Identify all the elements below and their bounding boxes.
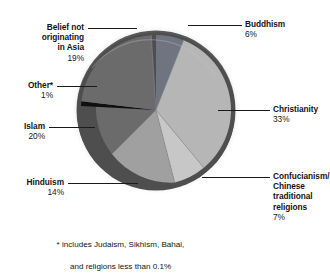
footnote-line2: and religions less than 0.1% bbox=[70, 262, 171, 271]
label-islam: Islam 20% bbox=[0, 121, 45, 141]
footnote-line1: * includes Judaism, Sikhism, Bahai, bbox=[57, 240, 185, 249]
label-buddhism-name: Buddhism bbox=[245, 19, 285, 29]
label-islam-pct: 20% bbox=[0, 131, 45, 141]
leader-line-islam bbox=[49, 127, 95, 128]
leader-line-other bbox=[57, 86, 97, 87]
label-hinduism-name: Hinduism bbox=[27, 177, 64, 187]
label-other-name: Other* bbox=[28, 80, 53, 90]
label-belief-not-asia-pct: 19% bbox=[0, 53, 84, 63]
label-belief-not-asia-line2: originating bbox=[42, 32, 84, 42]
label-confucianism-line2: Chinese bbox=[273, 181, 305, 191]
leader-line-hinduism bbox=[68, 183, 138, 184]
label-confucianism-pct: 7% bbox=[273, 212, 330, 222]
leader-line-buddhism bbox=[188, 25, 242, 26]
label-belief-not-asia-line1: Belief not bbox=[47, 22, 84, 32]
label-christianity: Christianity 33% bbox=[273, 104, 318, 124]
leader-line-confucianism bbox=[202, 177, 270, 178]
leader-line-christianity bbox=[218, 110, 270, 111]
label-confucianism-line3: traditional bbox=[273, 191, 313, 201]
label-hinduism-pct: 14% bbox=[0, 187, 64, 197]
label-belief-not-asia: Belief not originating in Asia 19% bbox=[0, 22, 84, 63]
label-hinduism: Hinduism 14% bbox=[0, 177, 64, 197]
leader-line-belief-not-asia bbox=[88, 28, 137, 29]
label-other: Other* 1% bbox=[0, 80, 53, 100]
label-islam-name: Islam bbox=[24, 121, 45, 131]
label-buddhism-pct: 6% bbox=[245, 29, 285, 39]
label-belief-not-asia-line3: in Asia bbox=[57, 42, 84, 52]
label-christianity-name: Christianity bbox=[273, 104, 318, 114]
label-confucianism-line4: religions bbox=[273, 202, 307, 212]
label-buddhism: Buddhism 6% bbox=[245, 19, 285, 39]
label-confucianism: Confucianism/ Chinese traditional religi… bbox=[273, 171, 330, 222]
footnote: * includes Judaism, Sikhism, Bahai, and … bbox=[18, 228, 223, 272]
label-other-pct: 1% bbox=[0, 90, 53, 100]
label-christianity-pct: 33% bbox=[273, 114, 318, 124]
label-confucianism-line1: Confucianism/ bbox=[273, 171, 330, 181]
